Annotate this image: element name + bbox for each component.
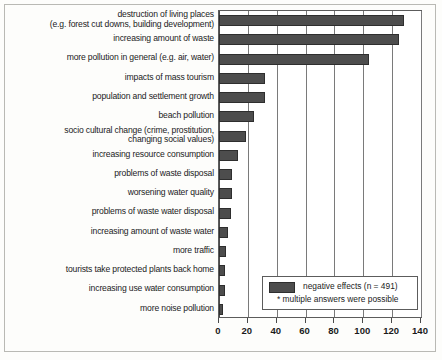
bar: [219, 54, 369, 65]
category-label-line2: changing social values): [8, 135, 214, 145]
category-label-line1: worsening water quality: [128, 187, 214, 197]
x-axis-tick-labels: 020406080100120140: [190, 325, 440, 341]
bar: [219, 34, 399, 45]
category-label-line1: socio cultural change (crime, prostituti…: [64, 125, 214, 135]
x-tick-20: [247, 318, 248, 323]
gridline-140: [421, 11, 422, 317]
category-label: worsening water quality: [8, 188, 214, 198]
bar: [219, 208, 231, 219]
chart-figure: destruction of living places(e.g. forest…: [0, 0, 442, 360]
category-label-line1: more pollution in general (e.g. air, wat…: [67, 52, 214, 62]
legend-note-label: * multiple answers were possible: [277, 294, 399, 304]
bar: [219, 265, 225, 276]
x-tick-40: [276, 318, 277, 323]
x-tick-label-40: 40: [270, 325, 281, 336]
x-tick-100: [362, 318, 363, 323]
bar: [219, 169, 232, 180]
category-label-line1: impacts of mass tourism: [125, 72, 214, 82]
x-tick-label-120: 120: [383, 325, 399, 336]
x-tick-label-60: 60: [299, 325, 310, 336]
x-tick-120: [391, 318, 392, 323]
x-tick-label-100: 100: [354, 325, 370, 336]
bar: [219, 15, 404, 26]
category-label: destruction of living places(e.g. forest…: [8, 10, 214, 29]
bar: [219, 304, 223, 315]
category-label-line1: increasing amount of waste water: [91, 226, 214, 236]
x-tick-label-140: 140: [412, 325, 428, 336]
bar: [219, 227, 228, 238]
category-label-line1: tourists take protected plants back home: [66, 264, 214, 274]
legend-series-label: negative effects (n = 491): [303, 281, 398, 291]
bar: [219, 246, 226, 257]
bar-series: [219, 11, 421, 317]
category-label: problems of waste disposal: [8, 169, 214, 179]
category-label-line1: increasing amount of waste: [113, 33, 214, 43]
category-label: problems of waste water disposal: [8, 207, 214, 217]
x-tick-0: [218, 318, 219, 323]
category-label-line1: population and settlement growth: [92, 91, 214, 101]
legend-swatch-negative-effects: [269, 282, 295, 293]
x-tick-80: [333, 318, 334, 323]
plot-area: [218, 10, 422, 318]
x-tick-label-80: 80: [328, 325, 339, 336]
x-tick-label-20: 20: [242, 325, 253, 336]
x-tick-140: [420, 318, 421, 323]
bar: [219, 188, 232, 199]
category-label: beach pollution: [8, 111, 214, 121]
category-label-line1: increasing resource consumption: [93, 149, 214, 159]
x-tick-label-0: 0: [215, 325, 220, 336]
category-label-line1: problems of waste water disposal: [92, 206, 214, 216]
category-label: increasing resource consumption: [8, 150, 214, 160]
category-label: impacts of mass tourism: [8, 73, 214, 83]
bar: [219, 150, 238, 161]
category-label-line1: increasing use water consumption: [89, 283, 214, 293]
category-label: more noise pollution: [8, 304, 214, 314]
bar: [219, 285, 225, 296]
category-label: increasing amount of waste: [8, 34, 214, 44]
category-label-line2: (e.g. forest cut downs, building develop…: [8, 20, 214, 30]
category-label: increasing amount of waste water: [8, 227, 214, 237]
category-label-line1: destruction of living places: [117, 9, 214, 19]
bar: [219, 131, 246, 142]
category-label-line1: more traffic: [173, 245, 214, 255]
category-label-column: destruction of living places(e.g. forest…: [8, 8, 214, 318]
bar: [219, 73, 265, 84]
category-label: more traffic: [8, 246, 214, 256]
category-label: tourists take protected plants back home: [8, 265, 214, 275]
category-label: socio cultural change (crime, prostituti…: [8, 126, 214, 145]
bar: [219, 111, 254, 122]
category-label-line1: beach pollution: [158, 110, 214, 120]
category-label: population and settlement growth: [8, 92, 214, 102]
category-label-line1: problems of waste disposal: [114, 168, 214, 178]
category-label: increasing use water consumption: [8, 284, 214, 294]
bar: [219, 92, 265, 103]
chart-legend: negative effects (n = 491) * multiple an…: [262, 276, 418, 310]
category-label-line1: more noise pollution: [140, 303, 214, 313]
x-tick-60: [305, 318, 306, 323]
category-label: more pollution in general (e.g. air, wat…: [8, 53, 214, 63]
